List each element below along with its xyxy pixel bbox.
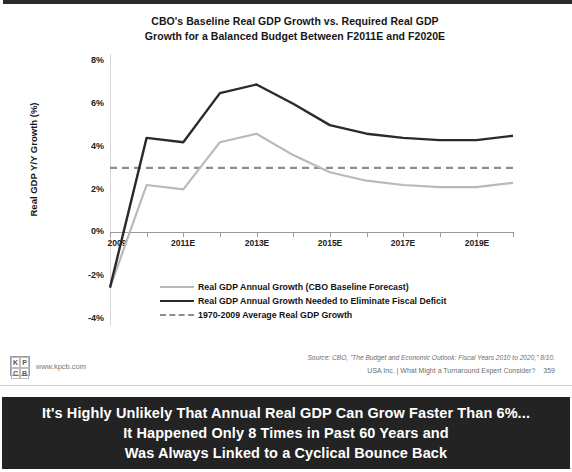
legend-item: Real GDP Annual Growth (CBO Baseline For…	[160, 280, 520, 293]
kpcb-branding: K P C B www.kpcb.com	[10, 356, 86, 376]
source-note: Source: CBO, "The Budget and Economic Ou…	[255, 354, 555, 361]
legend-swatch-solid-dark-icon	[160, 296, 194, 306]
chart-panel: CBO's Baseline Real GDP Growth vs. Requi…	[0, 4, 572, 385]
deck-footer: USA Inc. | What Might a Turnaround Exper…	[300, 367, 555, 374]
banner-line: It Happened Only 8 Times in Past 60 Year…	[123, 423, 449, 443]
kpcb-logo-letter: K	[11, 357, 20, 368]
banner-line: It's Highly Unlikely That Annual Real GD…	[42, 403, 530, 423]
kpcb-logo-letter: P	[20, 357, 29, 368]
legend-swatch-solid-light-icon	[160, 282, 194, 292]
legend-swatch-dashed-icon	[160, 310, 194, 320]
chart-legend: Real GDP Annual Growth (CBO Baseline For…	[160, 280, 520, 322]
kpcb-logo-letter: C	[11, 368, 20, 379]
banner-line: Was Always Linked to a Cyclical Bounce B…	[125, 443, 447, 463]
series-line-cbo-baseline	[110, 134, 513, 288]
chart-series-layer	[0, 4, 572, 385]
slide-root: CBO's Baseline Real GDP Growth vs. Requi…	[0, 0, 572, 472]
kpcb-logo-letter: B	[20, 368, 29, 379]
takeaway-banner: It's Highly Unlikely That Annual Real GD…	[2, 397, 570, 469]
footer-divider	[0, 385, 572, 386]
kpcb-logo-icon: K P C B	[10, 356, 30, 376]
legend-item: 1970-2009 Average Real GDP Growth	[160, 308, 520, 321]
legend-label: Real GDP Annual Growth Needed to Elimina…	[198, 296, 446, 306]
kpcb-url: www.kpcb.com	[36, 362, 86, 371]
legend-label: Real GDP Annual Growth (CBO Baseline For…	[198, 282, 409, 292]
legend-item: Real GDP Annual Growth Needed to Elimina…	[160, 294, 520, 307]
deck-title: USA Inc. | What Might a Turnaround Exper…	[367, 367, 535, 374]
page-number: 359	[543, 367, 555, 374]
legend-label: 1970-2009 Average Real GDP Growth	[198, 310, 352, 320]
